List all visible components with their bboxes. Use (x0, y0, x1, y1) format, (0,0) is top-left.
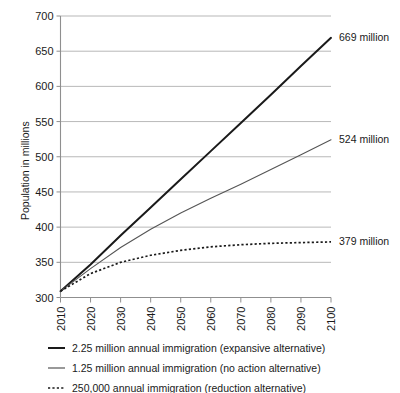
x-tick-label: 2070 (235, 307, 247, 331)
x-tick-label: 2090 (295, 307, 307, 331)
y-axis-title: Population in millions (19, 121, 31, 220)
x-tick-label: 2080 (265, 307, 277, 331)
x-tick-label: 2050 (175, 307, 187, 331)
legend-item-label-0: 2.25 million annual immigration (expansi… (72, 342, 325, 354)
y-tick-label: 450 (35, 186, 53, 198)
y-tick-label: 300 (35, 292, 53, 304)
y-tick-label: 400 (35, 221, 53, 233)
y-tick-label: 700 (35, 10, 53, 22)
y-tick-label: 350 (35, 256, 53, 268)
gridlines (61, 16, 332, 262)
y-tick-label: 600 (35, 80, 53, 92)
legend-item-label-1: 1.25 million annual immigration (no acti… (72, 362, 321, 374)
footer-ghost-text (36, 386, 376, 393)
x-tick-label: 2020 (85, 307, 97, 331)
series-group (61, 38, 332, 291)
series-end-label-2: 379 million (339, 235, 389, 247)
x-tick-label: 2060 (205, 307, 217, 331)
y-ticks: 300350400450500550600650700 (35, 10, 60, 304)
x-tick-label: 2100 (325, 307, 337, 331)
y-tick-label: 500 (35, 151, 53, 163)
x-tick-label: 2010 (55, 307, 67, 331)
x-tick-label: 2030 (115, 307, 127, 331)
series-end-label-0: 669 million (339, 31, 389, 43)
series-line-2 (61, 242, 332, 291)
x-tick-label: 2040 (145, 307, 157, 331)
series-end-label-1: 524 million (339, 133, 389, 145)
annotations: 669 million524 million379 million (339, 31, 389, 247)
x-ticks: 2010202020302040205020602070208020902100 (55, 298, 338, 331)
y-tick-label: 650 (35, 45, 53, 57)
population-projection-chart: Population in millions 30035040045050055… (0, 0, 400, 393)
y-tick-label: 550 (35, 116, 53, 128)
series-line-0 (61, 38, 332, 291)
chart-svg: Population in millions 30035040045050055… (0, 0, 400, 393)
series-line-1 (61, 140, 332, 291)
